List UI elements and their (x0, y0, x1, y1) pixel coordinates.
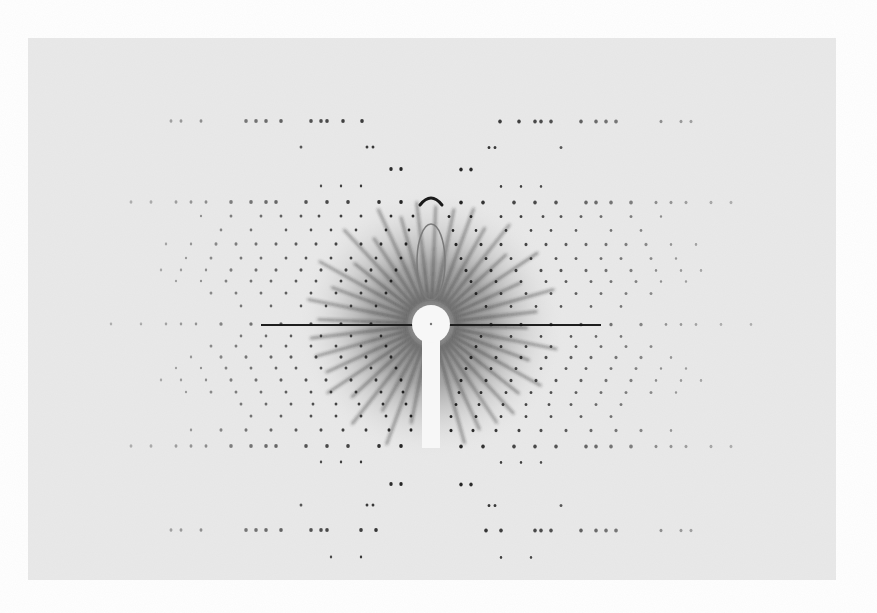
diffraction-photograph (0, 0, 877, 613)
direct-beam-dot (430, 323, 432, 325)
